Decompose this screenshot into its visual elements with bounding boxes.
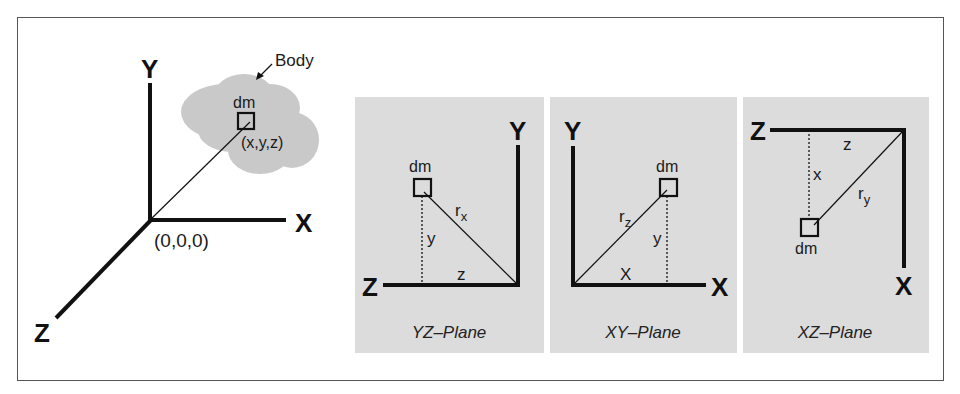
panel-caption: YZ–Plane — [412, 323, 487, 342]
y-axis-label: Y — [141, 54, 158, 84]
vertical-distance-label: x — [813, 165, 822, 184]
horizontal-axis-label: X — [711, 272, 729, 302]
dm-label: dm — [409, 158, 431, 175]
vertical-axis-label: Y — [564, 116, 581, 146]
horizontal-axis-label: Z — [362, 272, 378, 302]
origin-label: (0,0,0) — [154, 230, 209, 251]
vertical-axis-label: Y — [509, 116, 526, 146]
panel-caption: XZ–Plane — [797, 323, 873, 342]
horizontal-distance-label: z — [457, 265, 466, 284]
yz-plane-panel: dm rx y z Y Z YZ–Plane — [355, 97, 544, 353]
vertical-distance-label: y — [653, 229, 662, 248]
dm-label: dm — [233, 94, 255, 111]
body-label: Body — [275, 51, 314, 70]
z-axis — [56, 220, 151, 318]
dm-label: dm — [795, 240, 817, 257]
xz-plane-panel: dm ry x z Z X XZ–Plane — [743, 97, 929, 353]
xy-plane-panel: dm rz y X Y X XY–Plane — [550, 97, 737, 353]
horizontal-axis-label: Z — [750, 116, 766, 146]
body-cloud-icon — [181, 74, 319, 174]
z-axis-label: Z — [34, 318, 50, 348]
main-3d-diagram: Body dm (x,y,z) Y X Z (0,0,0) — [34, 51, 319, 348]
panel-caption: XY–Plane — [604, 323, 681, 342]
coords-label: (x,y,z) — [241, 134, 283, 151]
horizontal-distance-label: z — [843, 135, 852, 154]
horizontal-distance-label: X — [620, 265, 631, 284]
vertical-distance-label: y — [427, 229, 436, 248]
moment-of-inertia-diagram: Body dm (x,y,z) Y X Z (0,0,0) dm rx y z … — [0, 0, 960, 394]
x-axis-label: X — [295, 208, 313, 238]
vertical-axis-label: X — [895, 271, 913, 301]
dm-label: dm — [656, 158, 678, 175]
body-pointer-arrow — [256, 64, 272, 80]
